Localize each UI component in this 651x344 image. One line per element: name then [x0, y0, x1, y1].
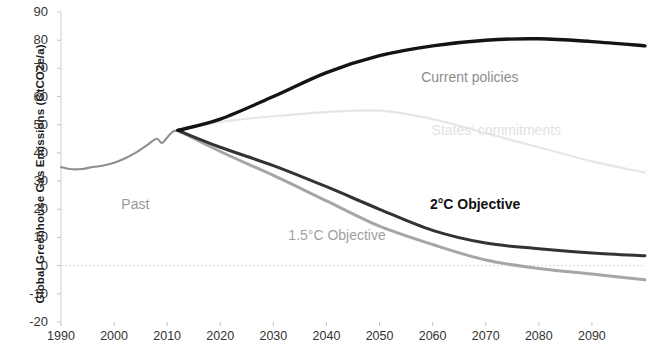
emissions-scenarios-chart: Global Greenhouse Gas Emissions (GtCO2e/…: [0, 0, 651, 344]
series-label-1-5-c-objective: 1.5°C Objective: [288, 228, 385, 242]
plot-area: [0, 0, 651, 344]
series-label-current-policies: Current policies: [421, 70, 518, 84]
series-layer: [61, 39, 645, 280]
series-label-past: Past: [121, 197, 149, 211]
series-line-current-policies: [178, 39, 645, 131]
axes-layer: [57, 12, 645, 326]
series-label-2-c-objective: 2°C Objective: [430, 197, 520, 211]
series-line-past: [61, 130, 178, 169]
series-line-1-5-c-objective: [178, 130, 645, 279]
series-label-states-commitments: States' commitments: [432, 123, 562, 137]
